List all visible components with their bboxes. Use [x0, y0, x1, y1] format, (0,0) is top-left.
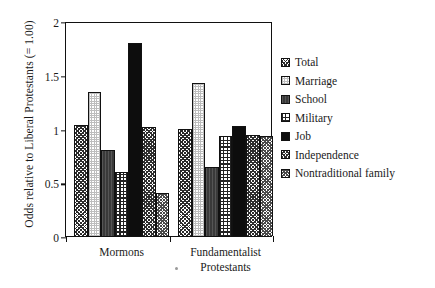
legend-item: Total: [281, 53, 395, 72]
legend-label: Independence: [295, 149, 359, 161]
bar: [142, 127, 156, 236]
legend-swatch-icon: [281, 76, 290, 85]
legend-swatch-icon: [281, 169, 290, 178]
bar: [232, 126, 246, 236]
legend-swatch-icon: [281, 95, 290, 104]
bar: [115, 172, 129, 237]
y-tick-label: 1.5: [10, 71, 66, 83]
bar-group: [178, 23, 273, 236]
bar: [74, 125, 88, 236]
bar: [101, 150, 115, 236]
legend-label: School: [295, 93, 327, 105]
plot-area: 00.511.52 MormonsFundamentalist Protesta…: [65, 22, 272, 237]
bar: [192, 83, 206, 236]
bar: [156, 193, 170, 236]
y-tick-label: 0.5: [10, 178, 66, 190]
legend-label: Marriage: [295, 75, 337, 87]
bar: [205, 167, 219, 236]
y-tick-label: 2: [10, 17, 66, 29]
plot-inner: 00.511.52 MormonsFundamentalist Protesta…: [66, 23, 271, 236]
legend-swatch-icon: [281, 113, 290, 122]
x-tick-mark: [66, 236, 67, 242]
legend-item: Military: [281, 109, 395, 128]
x-tick-mark: [273, 236, 274, 242]
legend-item: School: [281, 90, 395, 109]
bar: [178, 129, 192, 237]
y-tick-label: 0: [10, 232, 66, 244]
bar: [219, 136, 233, 236]
legend-label: Job: [295, 130, 311, 142]
legend-swatch-icon: [281, 132, 290, 141]
legend-item: Nontraditional family: [281, 164, 395, 183]
legend-swatch-icon: [281, 150, 290, 159]
legend-item: Marriage: [281, 72, 395, 91]
bar: [128, 43, 142, 237]
bar: [88, 92, 102, 236]
legend-swatch-icon: [281, 58, 290, 67]
legend-label: Military: [295, 112, 333, 124]
bar-chart: Odds relative to Liberal Protestants (= …: [0, 0, 435, 288]
bar-group: [74, 23, 169, 236]
legend: TotalMarriageSchoolMilitaryJobIndependen…: [281, 53, 395, 183]
x-category-label: Mormons: [99, 245, 144, 260]
bar: [246, 135, 260, 236]
bars-container: [66, 23, 271, 236]
y-tick-label: 1: [10, 125, 66, 137]
bar: [260, 136, 274, 236]
scan-speck: [175, 267, 178, 270]
legend-label: Nontraditional family: [295, 167, 395, 179]
legend-item: Job: [281, 127, 395, 146]
legend-label: Total: [295, 56, 318, 68]
legend-item: Independence: [281, 146, 395, 165]
x-category-label: Fundamentalist Protestants: [190, 245, 261, 275]
x-tick-mark: [170, 236, 171, 242]
